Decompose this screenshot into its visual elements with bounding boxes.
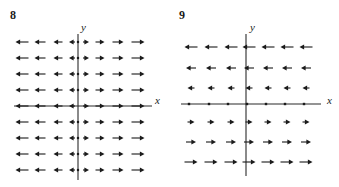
vector-8-r3-c6-head [119, 88, 124, 93]
vector-9-r3-c0-head [190, 120, 195, 125]
vector-8-r4-c7-head [140, 104, 145, 109]
vector-8-r3-c5-head [100, 88, 105, 93]
y-axis-dot-8-7 [77, 169, 79, 171]
vector-8-r7-c3-head [69, 152, 74, 157]
vector-9-r5-c1-head [213, 160, 218, 165]
vector-8-r8-c5-head [100, 168, 105, 173]
panel-8: 8 y x [0, 0, 170, 187]
vector-8-r7-c2-head [54, 152, 59, 157]
x-axis-dot-9-3 [246, 103, 248, 105]
x-axis-dot-9-0 [188, 103, 190, 105]
vector-8-r2-c7-head [140, 72, 145, 77]
vector-9-r2-c2-head [228, 86, 233, 91]
vector-9-r1-c2-head [226, 66, 231, 71]
vector-8-r0-c0-head [16, 40, 21, 45]
x-axis-dot-9-6 [303, 103, 305, 105]
vector-9-r2-c1-head [208, 86, 213, 91]
vector-8-r1-c1-head [35, 56, 40, 61]
vector-9-r5-c3-head [251, 160, 256, 165]
vector-9-r0-c2-head [225, 45, 230, 50]
vector-8-r4-c6-head [119, 104, 124, 109]
figure-page: 8 y x 9 y x [0, 0, 339, 187]
y-axis-dot-8-6 [77, 153, 79, 155]
x-axis-dot-9-2 [227, 103, 229, 105]
vector-9-r3-c3-head [248, 120, 253, 125]
vector-9-r3-c4-head [267, 120, 272, 125]
vector-8-r7-c7-head [140, 152, 145, 157]
vector-8-r0-c4-head [84, 40, 89, 45]
vector-9-r4-c3-head [249, 140, 254, 145]
vector-8-r6-c3-head [69, 136, 74, 141]
vector-8-r2-c0-head [16, 72, 21, 77]
vector-8-r7-c1-head [35, 152, 40, 157]
vector-8-r1-c4-head [84, 56, 89, 61]
vector-8-r0-c7-head [140, 40, 145, 45]
vector-8-r6-c1-head [35, 136, 40, 141]
vector-9-r0-c4-head [262, 45, 267, 50]
vector-8-r6-c4-head [84, 136, 89, 141]
vector-8-r3-c0-head [16, 88, 21, 93]
vector-9-r2-c5-head [284, 86, 289, 91]
vector-8-r5-c5-head [100, 120, 105, 125]
vector-9-r1-c1-head [206, 66, 211, 71]
vector-8-r2-c5-head [100, 72, 105, 77]
y-axis-dot-8-2 [77, 73, 79, 75]
vector-9-r5-c6-head [308, 160, 313, 165]
vector-9-r1-c6-head [301, 66, 306, 71]
vector-8-r6-c0-head [16, 136, 21, 141]
vector-9-r0-c6-head [300, 45, 305, 50]
vector-8-r5-c3-head [69, 120, 74, 125]
vector-9-r5-c0-head [193, 160, 198, 165]
vector-9-r1-c5-head [282, 66, 287, 71]
vector-8-r3-c7-head [140, 88, 145, 93]
vector-8-r6-c2-head [54, 136, 59, 141]
vector-9-r0-c5-head [281, 45, 286, 50]
vector-9-r5-c4-head [270, 160, 275, 165]
vector-9-r3-c2-head [230, 120, 235, 125]
vector-8-r7-c4-head [84, 152, 89, 157]
vector-8-r6-c6-head [119, 136, 124, 141]
vector-9-r0-c0-head [185, 45, 190, 50]
vector-9-r1-c0-head [186, 66, 191, 71]
vector-8-r5-c2-head [54, 120, 59, 125]
vector-8-r2-c1-head [35, 72, 40, 77]
vector-9-r5-c5-head [289, 160, 294, 165]
vector-8-r8-c2-head [54, 168, 59, 173]
vector-8-r3-c3-head [69, 88, 74, 93]
y-axis-dot-8-1 [77, 57, 79, 59]
vector-9-r3-c5-head [286, 120, 291, 125]
slope-field-9 [169, 0, 339, 187]
y-axis-dot-8-3 [77, 89, 79, 91]
vector-9-r4-c0-head [191, 140, 196, 145]
slope-field-8 [0, 0, 170, 187]
vector-8-r4-c4-head [84, 104, 89, 109]
vector-9-r3-c6-head [305, 120, 310, 125]
vector-8-r0-c3-head [69, 40, 74, 45]
vector-9-r2-c0-head [188, 86, 193, 91]
vector-9-r4-c6-head [306, 140, 311, 145]
vector-8-r5-c4-head [84, 120, 89, 125]
vector-8-r5-c0-head [16, 120, 21, 125]
vector-8-r4-c0-head [16, 104, 21, 109]
vector-8-r3-c1-head [35, 88, 40, 93]
vector-8-r1-c5-head [100, 56, 105, 61]
vector-9-r4-c1-head [211, 140, 216, 145]
vector-8-r8-c0-head [16, 168, 21, 173]
vector-8-r1-c0-head [16, 56, 21, 61]
vector-8-r1-c6-head [119, 56, 124, 61]
vector-8-r8-c1-head [35, 168, 40, 173]
vector-9-r4-c5-head [287, 140, 292, 145]
vector-8-r1-c3-head [69, 56, 74, 61]
vector-8-r8-c6-head [119, 168, 124, 173]
vector-9-r0-c3-head [243, 45, 248, 50]
vector-9-r1-c4-head [263, 66, 268, 71]
y-axis-dot-8-4 [77, 121, 79, 123]
y-axis-dot-8-0 [77, 41, 79, 43]
vector-8-r6-c5-head [100, 136, 105, 141]
vector-8-r1-c7-head [140, 56, 145, 61]
vector-8-r2-c3-head [69, 72, 74, 77]
vector-8-r8-c4-head [84, 168, 89, 173]
vector-9-r2-c6-head [303, 86, 308, 91]
x-axis-dot-9-1 [208, 103, 210, 105]
vector-8-r8-c7-head [140, 168, 145, 173]
